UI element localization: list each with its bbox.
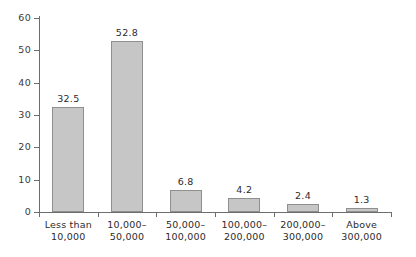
- x-tick-5: [332, 212, 333, 217]
- bar-3: [228, 198, 260, 212]
- y-tick-label-20: 20: [0, 141, 31, 152]
- bar-chart: 0102030405060 Less than10,00010,000–50,0…: [0, 0, 416, 257]
- x-tick-2: [156, 212, 157, 217]
- y-tick-label-60: 60: [0, 12, 31, 23]
- x-tick-6: [391, 212, 392, 217]
- x-tick-3: [215, 212, 216, 217]
- bar-1: [111, 41, 143, 212]
- x-category-label-0: Less than10,000: [39, 219, 98, 242]
- x-category-label-1: 10,000–50,000: [98, 219, 157, 242]
- bar-value-label-4: 2.4: [273, 190, 333, 201]
- y-tick-label-0: 0: [0, 206, 31, 217]
- x-tick-1: [98, 212, 99, 217]
- bar-value-label-2: 6.8: [156, 176, 216, 187]
- x-category-label-4: 200,000–300,000: [274, 219, 333, 242]
- bar-value-label-0: 32.5: [38, 93, 98, 104]
- plot-area: [40, 18, 400, 212]
- y-tick-label-10: 10: [0, 174, 31, 185]
- y-tick-label-50: 50: [0, 44, 31, 55]
- bar-value-label-5: 1.3: [332, 194, 392, 205]
- bar-value-label-3: 4.2: [214, 184, 274, 195]
- x-tick-4: [274, 212, 275, 217]
- x-category-label-2: 50,000–100,000: [156, 219, 215, 242]
- y-tick-label-40: 40: [0, 77, 31, 88]
- bar-0: [52, 107, 84, 212]
- bar-4: [287, 204, 319, 212]
- x-category-label-3: 100,000–200,000: [215, 219, 274, 242]
- x-tick-0: [39, 212, 40, 217]
- y-tick-label-30: 30: [0, 109, 31, 120]
- bar-2: [170, 190, 202, 212]
- x-category-label-5: Above300,000: [332, 219, 391, 242]
- bar-value-label-1: 52.8: [97, 27, 157, 38]
- bar-5: [346, 208, 378, 212]
